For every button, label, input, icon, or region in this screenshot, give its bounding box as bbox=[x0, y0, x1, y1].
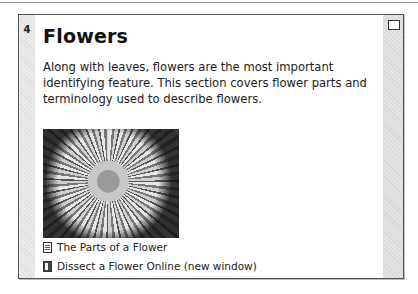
resource-dissect-a-flower[interactable]: Dissect a Flower Online (new window) bbox=[43, 258, 257, 274]
section-number: 4 bbox=[19, 24, 35, 35]
resource-label[interactable]: The Parts of a Flower bbox=[57, 241, 167, 253]
url-link-icon bbox=[43, 261, 52, 272]
resource-parts-of-a-flower[interactable]: The Parts of a Flower bbox=[43, 239, 257, 255]
document-icon bbox=[43, 242, 52, 253]
section-title: Flowers bbox=[43, 25, 128, 47]
section-side-left: 4 bbox=[19, 15, 35, 278]
top-divider bbox=[0, 2, 418, 3]
section-side-right bbox=[383, 15, 403, 278]
section-toggle-checkbox-icon[interactable] bbox=[388, 20, 400, 30]
flower-image bbox=[43, 129, 179, 238]
resource-list: The Parts of a Flower Dissect a Flower O… bbox=[43, 239, 257, 277]
course-section-flowers: 4 Flowers Along with leaves, flowers are… bbox=[18, 14, 404, 279]
resource-label[interactable]: Dissect a Flower Online (new window) bbox=[57, 260, 257, 272]
section-summary: Along with leaves, flowers are the most … bbox=[43, 59, 383, 107]
